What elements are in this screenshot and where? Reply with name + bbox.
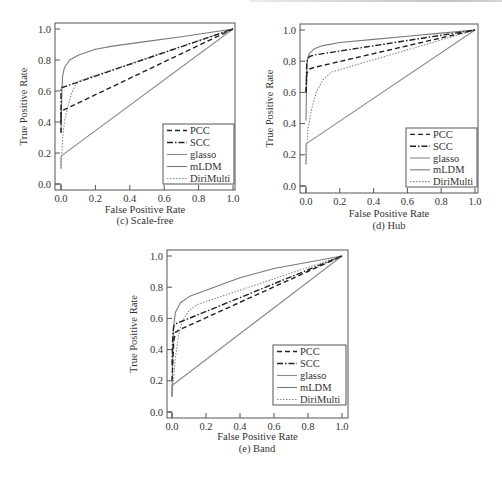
y-tick-label: 0.2: [150, 375, 163, 386]
legend-label-mldm: mLDM: [433, 164, 465, 175]
x-tick-label: 0.6: [401, 196, 414, 207]
x-axis-ticks: 0.00.20.40.60.81.0: [54, 185, 239, 204]
y-tick-label: 1.0: [38, 24, 51, 35]
series-pcc-line: [61, 29, 233, 133]
x-tick-label: 1.0: [468, 196, 481, 207]
origin-marker: [55, 184, 61, 190]
legend-label-pcc: PCC: [190, 125, 210, 136]
x-tick-label: 1.0: [335, 421, 348, 432]
x-tick-label: 0.0: [165, 421, 178, 432]
y-tick-label: 0.8: [150, 282, 163, 293]
y-tick-label: 0.2: [283, 149, 296, 160]
chart-caption: (e) Band: [239, 443, 276, 455]
legend-label-dirimulti: DiriMulti: [300, 394, 340, 405]
origin-marker: [300, 186, 306, 193]
x-tick-label: 0.0: [299, 196, 312, 207]
x-axis-label: False Positive Rate: [349, 208, 430, 219]
y-tick-label: 0.4: [283, 118, 297, 129]
x-tick-label: 0.4: [367, 196, 381, 207]
y-axis-ticks: 0.00.20.40.60.81.0: [150, 251, 172, 418]
y-tick-label: 0.8: [38, 55, 51, 66]
legend-label-scc: SCC: [433, 141, 453, 152]
roc-chart-e: 0.00.20.40.60.81.00.00.20.40.60.81.0Fals…: [128, 250, 349, 455]
figure-canvas: 0.00.20.40.60.81.00.00.20.40.60.81.0Fals…: [0, 0, 502, 481]
y-tick-label: 0.2: [38, 148, 51, 159]
roc-chart-c: 0.00.20.40.60.81.00.00.20.40.60.81.0Fals…: [18, 23, 240, 227]
y-tick-label: 0.0: [283, 181, 296, 192]
legend-label-scc: SCC: [190, 137, 210, 148]
y-axis-label: True Positive Rate: [18, 67, 29, 145]
legend-label-dirimulti: DiriMulti: [433, 176, 473, 187]
x-tick-label: 0.8: [301, 421, 314, 432]
x-tick-label: 0.4: [123, 193, 137, 204]
x-tick-label: 0.2: [333, 196, 346, 207]
x-tick-label: 0.2: [199, 421, 212, 432]
x-tick-label: 0.2: [89, 193, 102, 204]
y-axis-label: True Positive Rate: [264, 69, 275, 147]
legend-label-glasso: glasso: [433, 153, 459, 164]
x-tick-label: 1.0: [226, 193, 239, 204]
legend-label-dirimulti: DiriMulti: [190, 173, 230, 184]
legend-label-mldm: mLDM: [190, 161, 222, 172]
y-tick-label: 0.6: [38, 86, 51, 97]
x-axis-label: False Positive Rate: [105, 204, 186, 215]
y-tick-label: 0.6: [150, 313, 163, 324]
legend-label-pcc: PCC: [433, 129, 453, 140]
x-tick-label: 0.8: [192, 193, 205, 204]
x-tick-label: 0.8: [435, 196, 448, 207]
y-tick-label: 0.8: [283, 56, 296, 67]
y-tick-label: 0.0: [38, 179, 51, 190]
y-tick-label: 1.0: [283, 25, 296, 36]
legend-label-scc: SCC: [300, 358, 320, 369]
legend: PCCSCCglassomLDMDiriMulti: [163, 124, 234, 184]
legend-label-glasso: glasso: [300, 370, 326, 381]
y-tick-label: 0.0: [150, 407, 163, 418]
chart-caption: (c) Scale-free: [117, 215, 174, 227]
y-axis-ticks: 0.00.20.40.60.81.0: [38, 24, 60, 190]
legend-label-mldm: mLDM: [300, 382, 332, 393]
series-scc-line: [61, 29, 233, 122]
y-axis-ticks: 0.00.20.40.60.81.0: [283, 25, 305, 192]
y-tick-label: 0.6: [283, 87, 296, 98]
roc-chart-d: 0.00.20.40.60.81.00.00.20.40.60.81.0Fals…: [264, 24, 482, 232]
x-tick-label: 0.6: [158, 193, 171, 204]
series-pcc-line: [306, 30, 475, 92]
y-tick-label: 0.4: [150, 344, 164, 355]
x-tick-label: 0.0: [54, 193, 67, 204]
legend-label-glasso: glasso: [190, 149, 216, 160]
legend-label-pcc: PCC: [300, 346, 320, 357]
y-tick-label: 0.4: [38, 117, 52, 128]
y-axis-label: True Positive Rate: [128, 295, 139, 373]
y-tick-label: 1.0: [150, 251, 163, 262]
chart-caption: (d) Hub: [373, 220, 406, 232]
series-mldm-line: [61, 29, 233, 133]
legend: PCCSCCglassomLDMDiriMulti: [406, 128, 477, 187]
x-axis-label: False Positive Rate: [217, 431, 298, 442]
x-axis-ticks: 0.00.20.40.60.81.0: [299, 188, 481, 207]
origin-marker: [167, 412, 172, 418]
series-scc-line: [306, 30, 475, 92]
legend: PCCSCCglassomLDMDiriMulti: [273, 345, 346, 405]
x-axis-ticks: 0.00.20.40.60.81.0: [165, 413, 348, 432]
